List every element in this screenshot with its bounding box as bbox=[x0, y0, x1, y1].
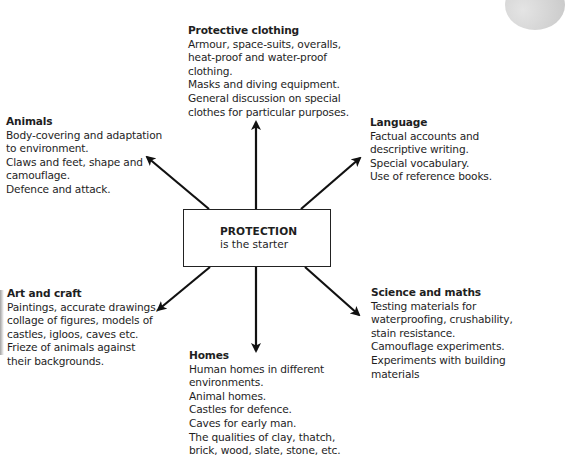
topic-line: Claws and feet, shape and bbox=[6, 156, 162, 170]
topic-homes: Homes Human homes in different environme… bbox=[189, 349, 341, 458]
arrow-to-science-and-maths bbox=[305, 267, 359, 315]
topic-title: Science and maths bbox=[371, 286, 513, 300]
topic-line: their backgrounds. bbox=[7, 355, 159, 369]
topic-title: Protective clothing bbox=[188, 24, 349, 38]
topic-art-and-craft: Art and craft Paintings, accurate drawin… bbox=[7, 287, 159, 369]
center-subtitle: is the starter bbox=[220, 238, 288, 250]
topic-title: Homes bbox=[189, 349, 341, 363]
topic-protective-clothing: Protective clothing Armour, space-suits,… bbox=[188, 24, 349, 119]
topic-line: Armour, space-suits, overalls, bbox=[188, 38, 349, 52]
topic-line: castles, igloos, caves etc. bbox=[7, 328, 159, 342]
topic-language: Language Factual accounts and descriptiv… bbox=[370, 116, 492, 184]
topic-line: Masks and diving equipment. bbox=[188, 78, 349, 92]
topic-line: Human homes in different bbox=[189, 363, 341, 377]
topic-line: collage of figures, models of bbox=[7, 314, 159, 328]
topic-line: brick, wood, slate, stone, etc. bbox=[189, 444, 341, 458]
topic-line: clothes for particular purposes. bbox=[188, 106, 349, 120]
topic-line: descriptive writing. bbox=[370, 143, 492, 157]
arrow-to-art-and-craft bbox=[158, 267, 210, 310]
topic-line: Frieze of animals against bbox=[7, 341, 159, 355]
topic-title: Animals bbox=[6, 115, 162, 129]
topic-line: materials bbox=[371, 368, 513, 382]
topic-line: stain resistance. bbox=[371, 327, 513, 341]
topic-line: waterproofing, crushability, bbox=[371, 313, 513, 327]
center-title: PROTECTION bbox=[220, 225, 297, 237]
topic-line: Defence and attack. bbox=[6, 183, 162, 197]
topic-title: Art and craft bbox=[7, 287, 159, 301]
topic-line: Camouflage experiments. bbox=[371, 340, 513, 354]
topic-line: camouflage. bbox=[6, 169, 162, 183]
topic-line: Caves for early man. bbox=[189, 417, 341, 431]
topic-line: heat-proof and water-proof bbox=[188, 51, 349, 65]
topic-line: Testing materials for bbox=[371, 300, 513, 314]
topic-line: Animal homes. bbox=[189, 390, 341, 404]
topic-line: environments. bbox=[189, 376, 341, 390]
topic-line: Body-covering and adaptation bbox=[6, 129, 162, 143]
topic-line: Paintings, accurate drawings, bbox=[7, 301, 159, 315]
topic-animals: Animals Body-covering and adaptation to … bbox=[6, 115, 162, 197]
topic-line: Special vocabulary. bbox=[370, 157, 492, 171]
topic-line: Factual accounts and bbox=[370, 130, 492, 144]
topic-title: Language bbox=[370, 116, 492, 130]
center-topic-box: PROTECTION is the starter bbox=[183, 209, 331, 267]
topic-line: to environment. bbox=[6, 142, 162, 156]
topic-line: The qualities of clay, thatch, bbox=[189, 431, 341, 445]
topic-line: Use of reference books. bbox=[370, 170, 492, 184]
topic-line: General discussion on special bbox=[188, 92, 349, 106]
topic-line: clothing. bbox=[188, 65, 349, 79]
topic-science-and-maths: Science and maths Testing materials for … bbox=[371, 286, 513, 381]
topic-line: Experiments with building bbox=[371, 354, 513, 368]
topic-line: Castles for defence. bbox=[189, 403, 341, 417]
arrow-to-language bbox=[301, 158, 360, 209]
